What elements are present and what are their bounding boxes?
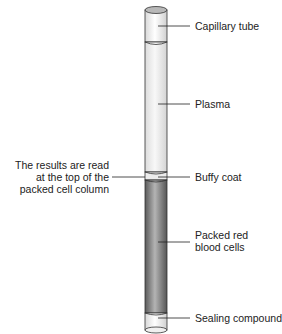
label-plasma: Plasma [195, 98, 230, 110]
label-results-line1: The results are read [15, 159, 109, 171]
label-packed-red-line2: blood cells [195, 241, 248, 253]
tube-top-opening [145, 7, 167, 14]
red-cells-section [145, 180, 167, 313]
label-results-line2: at the top of the [15, 171, 109, 183]
tube-bottom [145, 327, 167, 333]
label-packed-red-cells: Packed red blood cells [195, 229, 248, 253]
label-packed-red-line1: Packed red [195, 229, 248, 241]
plasma-section [145, 42, 167, 172]
label-sealing-compound: Sealing compound [195, 312, 282, 324]
label-results-note: The results are read at the top of the p… [15, 159, 109, 195]
label-buffy-coat: Buffy coat [195, 171, 242, 183]
label-results-line3: packed cell column [15, 183, 109, 195]
label-capillary-tube: Capillary tube [195, 20, 259, 32]
